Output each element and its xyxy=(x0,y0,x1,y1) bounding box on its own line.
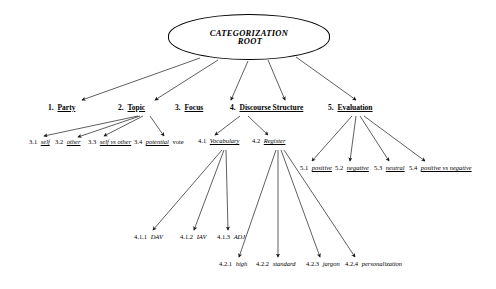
node-register-standard[interactable]: 4.2.2 standard xyxy=(256,261,296,268)
node-eval-positive-vs-negative-label: positive vs negative xyxy=(421,164,472,171)
node-vocabulary-iav-number: 4.1.2 xyxy=(180,233,193,240)
node-vocabulary-dav-number: 4.1.1 xyxy=(134,233,147,240)
node-focus-label: Focus xyxy=(185,103,204,112)
node-vocabulary-adj-label: ADJ xyxy=(234,233,246,240)
node-focus-potential-vote-tail: vote xyxy=(172,138,183,145)
node-focus[interactable]: 3. Focus xyxy=(175,104,203,112)
node-eval-positive-number: 5.1 xyxy=(300,164,308,171)
node-register-high[interactable]: 4.2.1 high xyxy=(219,261,247,268)
node-eval-negative[interactable]: 5.2 negative xyxy=(335,165,369,172)
node-topic-label: Topic xyxy=(128,103,146,112)
discourse-edges xyxy=(215,116,268,135)
node-eval-neutral[interactable]: 5.3 neutral xyxy=(374,165,405,172)
node-eval-positive-vs-negative-number: 5.4 xyxy=(409,164,417,171)
node-focus-other-number: 3.2 xyxy=(55,138,63,145)
node-focus-self-label: self xyxy=(41,138,50,145)
node-vocabulary-label: Vocabulary xyxy=(210,137,240,144)
focus-edges xyxy=(44,116,164,137)
node-evaluation-label: Evaluation xyxy=(338,103,373,112)
node-focus-potential-vote[interactable]: 3.4 potential vote xyxy=(134,139,184,146)
vocabulary-edges xyxy=(153,150,228,230)
node-register-personalization-label: personalization xyxy=(362,260,402,267)
node-focus-self-vs-other-label: self vs other xyxy=(100,138,131,145)
node-vocabulary-iav-label: IAV xyxy=(197,233,207,240)
root-label-line2: ROOT xyxy=(238,37,262,46)
node-eval-positive-vs-negative[interactable]: 5.4 positive vs negative xyxy=(409,165,472,172)
node-vocabulary-adj-number: 4.1.3 xyxy=(217,233,230,240)
node-party-label: Party xyxy=(58,103,76,112)
node-evaluation[interactable]: 5. Evaluation xyxy=(328,104,373,112)
node-eval-negative-number: 5.2 xyxy=(335,164,343,171)
node-register-jargon[interactable]: 4.2.3 jargon xyxy=(306,261,340,268)
node-vocabulary-dav-label: DAV xyxy=(151,233,163,240)
node-focus-potential-vote-number: 3.4 xyxy=(134,138,142,145)
node-register[interactable]: 4.2 Register xyxy=(252,138,285,145)
node-focus-number: 3. xyxy=(175,103,181,112)
node-eval-neutral-number: 5.3 xyxy=(374,164,382,171)
node-discourse-structure[interactable]: 4. Discourse Structure xyxy=(230,104,303,112)
node-eval-negative-label: negative xyxy=(347,164,369,171)
node-register-standard-number: 4.2.2 xyxy=(256,260,269,267)
node-vocabulary-adj[interactable]: 4.1.3 ADJ xyxy=(217,234,245,241)
node-topic-number: 2. xyxy=(118,103,124,112)
node-vocabulary-dav[interactable]: 4.1.1 DAV xyxy=(134,234,163,241)
node-party-number: 1. xyxy=(48,103,54,112)
node-topic[interactable]: 2. Topic xyxy=(118,104,145,112)
root-edges xyxy=(82,57,356,100)
root-node: CATEGORIZATION ROOT xyxy=(168,14,330,60)
node-party[interactable]: 1. Party xyxy=(48,104,75,112)
node-focus-other-label: other xyxy=(67,138,81,145)
node-focus-other[interactable]: 3.2 other xyxy=(55,139,80,146)
node-focus-self-vs-other[interactable]: 3.3 self vs other xyxy=(88,139,131,146)
node-register-standard-label: standard xyxy=(273,260,296,267)
node-focus-self-vs-other-number: 3.3 xyxy=(88,138,96,145)
node-focus-self[interactable]: 3.1 self xyxy=(29,139,50,146)
node-eval-positive-label: positive xyxy=(312,164,332,171)
node-register-high-label: high xyxy=(236,260,248,267)
evaluation-edges xyxy=(312,116,425,161)
node-register-number: 4.2 xyxy=(252,137,260,144)
node-eval-neutral-label: neutral xyxy=(386,164,405,171)
node-focus-self-number: 3.1 xyxy=(29,138,37,145)
node-evaluation-number: 5. xyxy=(328,103,334,112)
node-vocabulary[interactable]: 4.1 Vocabulary xyxy=(198,138,239,145)
node-focus-potential-vote-label: potential xyxy=(146,138,169,145)
node-register-label: Register xyxy=(264,137,286,144)
node-discourse-structure-label: Discourse Structure xyxy=(240,103,304,112)
node-register-high-number: 4.2.1 xyxy=(219,260,232,267)
node-register-jargon-number: 4.2.3 xyxy=(306,260,319,267)
node-register-personalization-number: 4.2.4 xyxy=(345,260,358,267)
taxonomy-diagram: CATEGORIZATION ROOT 1. Party 2. Topic 3.… xyxy=(0,0,496,289)
node-discourse-structure-number: 4. xyxy=(230,103,236,112)
node-register-jargon-label: jargon xyxy=(323,260,340,267)
node-vocabulary-iav[interactable]: 4.1.2 IAV xyxy=(180,234,206,241)
node-eval-positive[interactable]: 5.1 positive xyxy=(300,165,332,172)
node-register-personalization[interactable]: 4.2.4 personalization xyxy=(345,261,402,268)
node-vocabulary-number: 4.1 xyxy=(198,137,206,144)
